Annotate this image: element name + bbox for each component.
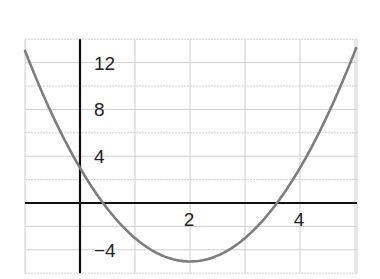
parabola-chart: 1284−424 bbox=[0, 0, 380, 279]
y-tick-label: 12 bbox=[94, 53, 115, 74]
x-tick-label: 4 bbox=[294, 209, 305, 230]
y-tick-label: −4 bbox=[94, 240, 116, 261]
x-tick-label: 2 bbox=[184, 209, 195, 230]
y-tick-label: 4 bbox=[94, 146, 105, 167]
y-tick-label: 8 bbox=[94, 99, 105, 120]
